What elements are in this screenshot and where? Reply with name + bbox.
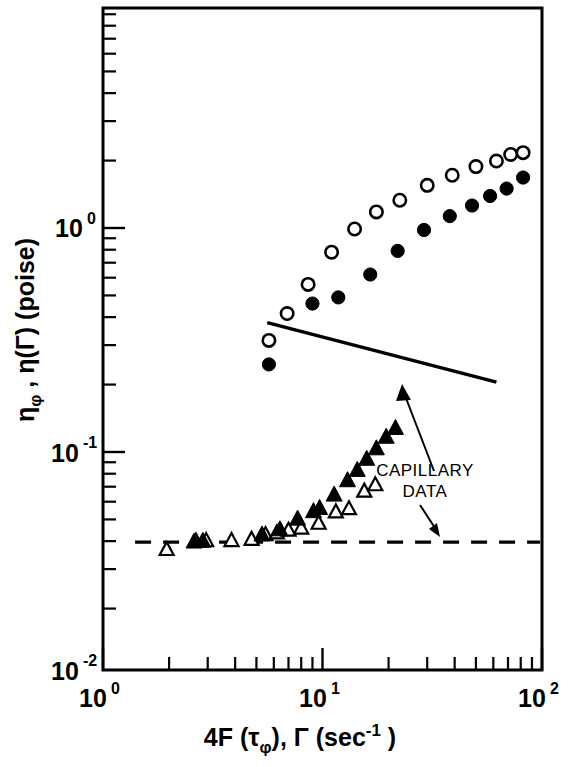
data-point-filled-triangle xyxy=(290,510,306,525)
data-point-open-circle xyxy=(470,160,482,172)
data-point-filled-circle xyxy=(306,297,319,310)
y-tick-exp-2: -2 xyxy=(83,652,97,669)
data-point-open-triangle xyxy=(160,542,174,555)
data-point-open-triangle xyxy=(342,501,356,514)
y-tick-exp-1: -1 xyxy=(83,434,97,451)
y-axis-tick-labels: 10 0 10 -1 10 -2 xyxy=(51,210,97,685)
arrow-to-solid-line xyxy=(396,384,434,471)
data-point-open-circle xyxy=(370,206,382,218)
data-point-filled-circle xyxy=(500,182,513,195)
y-tick-label-1e-1: 10 -1 xyxy=(51,434,97,467)
capillary-annotation-line1: CAPILLARY xyxy=(376,461,474,480)
y-tick-base-0: 10 xyxy=(55,214,83,242)
data-point-open-circle xyxy=(504,148,516,160)
y-tick-exp-0: 0 xyxy=(87,210,96,227)
axes-border xyxy=(103,8,542,670)
data-point-open-circle xyxy=(446,169,458,181)
data-point-filled-circle xyxy=(417,223,430,236)
x-tick-label-1e1: 10 1 xyxy=(299,680,340,712)
svg-text:ηφ , η(Γ) (poise): ηφ , η(Γ) (poise) xyxy=(11,238,45,422)
x-tick-label-1e2: 10 2 xyxy=(518,680,559,712)
svg-text:4F (τφ), Γ (sec-1 ): 4F (τφ), Γ (sec-1 ) xyxy=(204,721,396,757)
data-point-open-circle xyxy=(421,179,433,191)
x-tick-exp-0: 0 xyxy=(111,680,120,697)
y-axis-title: ηφ , η(Γ) (poise) xyxy=(11,238,45,422)
arrow-to-dashed-line xyxy=(420,505,440,537)
x-tick-exp-1: 1 xyxy=(331,680,340,697)
x-tick-base-2: 10 xyxy=(518,684,546,712)
y-tick-label-1e-2: 10 -2 xyxy=(51,652,97,685)
x-axis-title: 4F (τφ), Γ (sec-1 ) xyxy=(204,721,396,757)
x-title-exp: -1 xyxy=(366,721,381,740)
plot-frame xyxy=(103,8,542,670)
data-point-open-triangle xyxy=(225,533,239,546)
data-point-filled-circle xyxy=(443,210,456,223)
capillary-data-annotation: CAPILLARY DATA xyxy=(376,461,474,501)
y-tick-label-1e0: 10 0 xyxy=(55,210,96,242)
x-tick-label-1e0: 10 0 xyxy=(79,680,120,712)
y-axis-ticks xyxy=(103,14,125,608)
figure-container: CAPILLARY DATA 10 0 10 -1 10 -2 10 0 xyxy=(0,0,575,767)
data-point-filled-circle xyxy=(391,244,404,257)
data-point-open-circle xyxy=(281,307,293,319)
capillary-data-solid-line xyxy=(267,323,496,383)
y-title-phi-sub: φ xyxy=(26,395,45,407)
x-title-phi-sub: φ xyxy=(259,738,271,757)
y-tick-base-1: 10 xyxy=(51,439,79,467)
data-point-filled-circle xyxy=(332,291,345,304)
data-point-open-circle xyxy=(263,334,275,346)
x-title-part-c: ) xyxy=(381,723,396,751)
y-title-eta: η xyxy=(11,407,39,422)
data-point-open-circle xyxy=(325,246,337,258)
x-tick-exp-2: 2 xyxy=(550,680,559,697)
x-axis-tick-labels: 10 0 10 1 10 2 xyxy=(79,680,559,712)
data-point-open-triangle xyxy=(329,504,343,517)
scatter-plot-svg: CAPILLARY DATA 10 0 10 -1 10 -2 10 0 xyxy=(0,0,575,767)
capillary-annotation-line2: DATA xyxy=(403,482,448,501)
x-title-part-b: ), Γ (sec xyxy=(272,723,366,751)
data-point-filled-circle xyxy=(262,358,275,371)
data-point-open-circle xyxy=(348,223,360,235)
data-point-open-circle xyxy=(394,194,406,206)
y-title-rest: , η(Γ) (poise) xyxy=(11,238,39,395)
y-tick-base-2: 10 xyxy=(51,657,79,685)
x-axis-ticks xyxy=(103,648,542,670)
x-tick-base-1: 10 xyxy=(299,684,327,712)
data-point-filled-triangle xyxy=(326,486,342,501)
data-point-filled-circle xyxy=(483,189,496,202)
data-point-open-circle xyxy=(517,146,529,158)
data-point-filled-circle xyxy=(516,171,529,184)
data-point-filled-circle xyxy=(364,268,377,281)
x-tick-base-0: 10 xyxy=(79,684,107,712)
data-point-filled-triangle xyxy=(387,419,403,434)
x-title-part-a: 4F (τ xyxy=(204,723,260,751)
data-point-open-circle xyxy=(490,155,502,167)
data-point-open-circle xyxy=(302,278,314,290)
data-point-filled-circle xyxy=(465,199,478,212)
data-series-layer xyxy=(160,146,530,555)
